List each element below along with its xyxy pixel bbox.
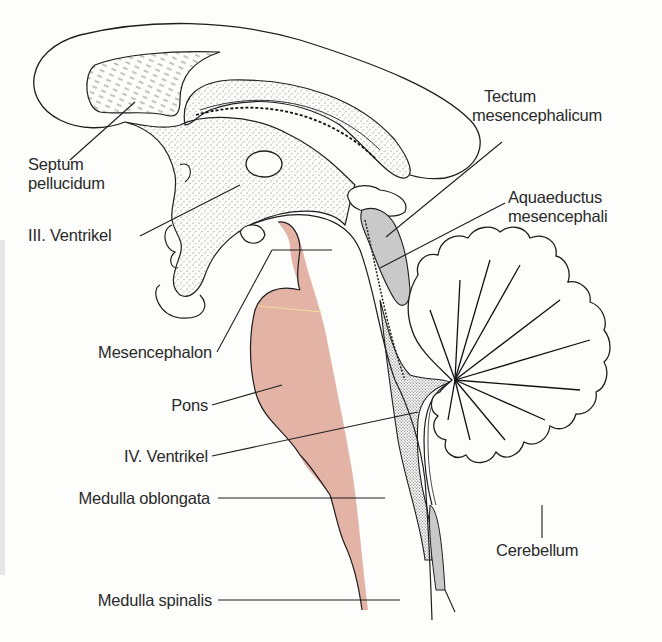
- label-tectum-line2: mesencephalicum: [472, 106, 602, 125]
- label-medulla-oblongata: Medulla oblongata: [30, 489, 210, 508]
- interthalamic-adhesion: [246, 151, 282, 177]
- cerebellum-shape: [408, 227, 610, 462]
- central-canal-gray: [429, 505, 445, 590]
- label-tectum-line1: Tectum: [472, 87, 602, 106]
- label-third-ventricle: III. Ventrikel: [28, 226, 111, 245]
- mammillary-body: [240, 225, 265, 243]
- label-pons: Pons: [110, 396, 208, 415]
- label-mesencephalon: Mesencephalon: [62, 343, 212, 362]
- label-cerebellum: Cerebellum: [496, 541, 578, 560]
- label-aqueduct-line2: mesencephali: [508, 207, 607, 226]
- label-tectum-mesencephalicum: Tectum mesencephalicum: [472, 87, 602, 125]
- label-septum-line1: Septum: [28, 155, 105, 174]
- label-septum-line2: pellucidum: [28, 174, 105, 193]
- label-fourth-ventricle: IV. Ventrikel: [60, 447, 208, 466]
- label-medulla-spinalis: Medulla spinalis: [40, 591, 212, 610]
- label-septum-pellucidum: Septum pellucidum: [28, 155, 105, 193]
- label-aqueduct-line1: Aquaeductus: [508, 188, 607, 207]
- third-ventricle-region: [125, 117, 355, 296]
- label-aquaeductus-mesencephali: Aquaeductus mesencephali: [508, 188, 607, 226]
